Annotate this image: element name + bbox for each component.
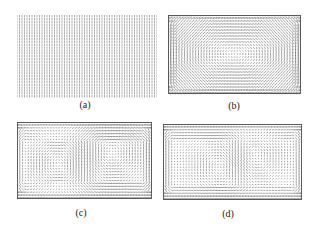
vector-field-plot <box>17 15 157 99</box>
vector-field-plot <box>163 124 302 203</box>
panel-c-vector-field <box>17 122 152 202</box>
vector-arrows <box>163 124 302 199</box>
vector-arrows <box>17 15 157 97</box>
panel-d-caption: (d) <box>222 209 234 219</box>
panel-b-vector-field <box>168 15 301 97</box>
vector-arrows <box>168 15 301 94</box>
panel-c-caption: (c) <box>75 208 86 218</box>
panel-d-vector-field <box>163 124 302 203</box>
panel-a-vector-field <box>17 15 157 99</box>
vector-field-plot <box>17 122 152 202</box>
vector-field-plot <box>168 15 301 97</box>
panel-b-caption: (b) <box>228 101 240 111</box>
panel-a-caption: (a) <box>79 100 90 110</box>
vector-arrows <box>17 122 152 198</box>
